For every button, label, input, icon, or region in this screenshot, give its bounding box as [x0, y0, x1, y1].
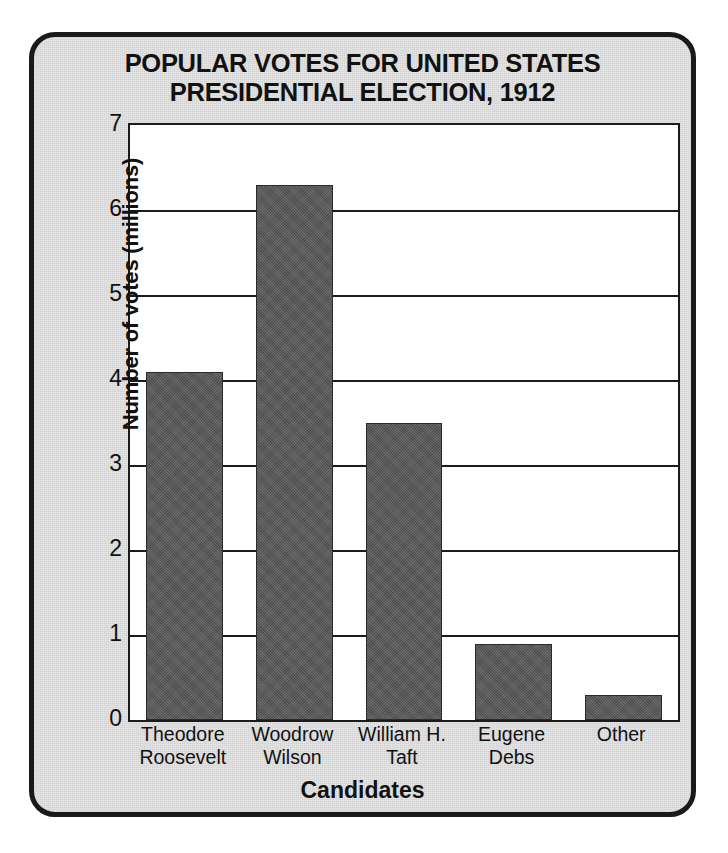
chart-title-line-2: PRESIDENTIAL ELECTION, 1912: [34, 78, 691, 107]
x-axis-tick-label-line: Taft: [347, 746, 457, 769]
x-axis-tick-label-line: Debs: [457, 746, 567, 769]
x-axis-tick-label-line: Wilson: [238, 746, 348, 769]
bar: [256, 185, 333, 721]
x-axis-tick-label: Other: [566, 723, 676, 746]
x-axis-tick-label: EugeneDebs: [457, 723, 567, 769]
y-axis-tick-label: 6: [109, 197, 122, 220]
y-axis-tick-label: 0: [109, 707, 122, 730]
x-axis-tick-label-line: Theodore: [128, 723, 238, 746]
bar: [146, 372, 223, 721]
x-axis-tick-label: WoodrowWilson: [238, 723, 348, 769]
plot-area: [128, 123, 680, 722]
y-axis-tick-label: 7: [109, 112, 122, 135]
bar: [585, 695, 662, 721]
chart-title-line-1: POPULAR VOTES FOR UNITED STATES: [34, 49, 691, 78]
chart-title: POPULAR VOTES FOR UNITED STATES PRESIDEN…: [34, 49, 691, 106]
x-axis-tick-label-line: William H.: [347, 723, 457, 746]
bar: [366, 423, 443, 721]
y-axis-tick-label: 5: [109, 282, 122, 305]
x-axis-tick-labels: TheodoreRooseveltWoodrowWilsonWilliam H.…: [128, 723, 680, 785]
bars-layer: [130, 125, 678, 720]
y-axis-tick-label: 1: [109, 622, 122, 645]
y-axis-tick-label: 3: [109, 452, 122, 475]
x-axis-tick-label-line: Other: [566, 723, 676, 746]
chart-panel: POPULAR VOTES FOR UNITED STATES PRESIDEN…: [29, 32, 696, 817]
y-axis-tick-label: 2: [109, 537, 122, 560]
x-axis-tick-label-line: Woodrow: [238, 723, 348, 746]
y-axis-tick-label: 4: [109, 367, 122, 390]
x-axis-tick-label-line: Roosevelt: [128, 746, 238, 769]
y-axis-tick-labels: 01234567: [74, 123, 122, 718]
x-axis-tick-label-line: Eugene: [457, 723, 567, 746]
x-axis-tick-label: William H.Taft: [347, 723, 457, 769]
bar: [475, 644, 552, 721]
x-axis-title: Candidates: [34, 777, 691, 804]
x-axis-tick-label: TheodoreRoosevelt: [128, 723, 238, 769]
